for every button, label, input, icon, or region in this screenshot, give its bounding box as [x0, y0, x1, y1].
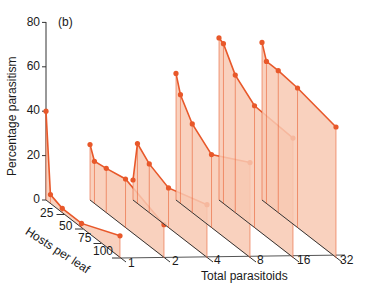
x-axis-line: [120, 255, 345, 258]
data-point: [87, 142, 92, 147]
y-tick-80: 80: [16, 16, 40, 28]
y-axis-label: Percentage parasitism: [6, 57, 18, 176]
data-point: [123, 176, 128, 181]
data-point: [276, 68, 281, 73]
x-tick-2: 2: [172, 255, 179, 267]
data-point: [252, 103, 257, 108]
data-point: [190, 121, 195, 126]
y-tick-20: 20: [16, 149, 40, 161]
x-tick-16: 16: [297, 254, 310, 266]
data-point: [173, 71, 178, 76]
z-tick-50: 50: [59, 220, 72, 232]
data-point: [48, 192, 53, 197]
data-point: [79, 221, 84, 226]
z-tick-100: 100: [93, 245, 113, 257]
z-tick-75: 75: [78, 232, 91, 244]
x-tick-32: 32: [340, 254, 353, 266]
data-point: [92, 159, 97, 164]
x-tick-4: 4: [214, 254, 221, 266]
y-tick-60: 60: [16, 60, 40, 72]
data-point: [209, 152, 214, 157]
data-point: [60, 206, 65, 211]
data-point: [135, 141, 140, 146]
data-point: [233, 73, 238, 78]
data-point: [178, 92, 183, 97]
data-point: [216, 35, 221, 40]
data-point: [104, 166, 109, 171]
data-point: [333, 124, 338, 129]
data-point: [259, 40, 264, 45]
data-point: [264, 59, 269, 64]
x-tick-1: 1: [128, 257, 135, 269]
data-point: [43, 109, 48, 114]
data-point: [221, 41, 226, 46]
data-point: [295, 85, 300, 90]
y-tick-0: 0: [16, 193, 40, 205]
data-point: [166, 185, 171, 190]
z-tick-25: 25: [40, 207, 53, 219]
y-tick-40: 40: [16, 104, 40, 116]
data-point: [117, 233, 122, 238]
x-axis-label: Total parasitoids: [201, 270, 288, 282]
panel-label: (b): [58, 16, 73, 28]
x-tick-8: 8: [257, 254, 264, 266]
data-point: [130, 177, 135, 182]
data-point: [147, 161, 152, 166]
